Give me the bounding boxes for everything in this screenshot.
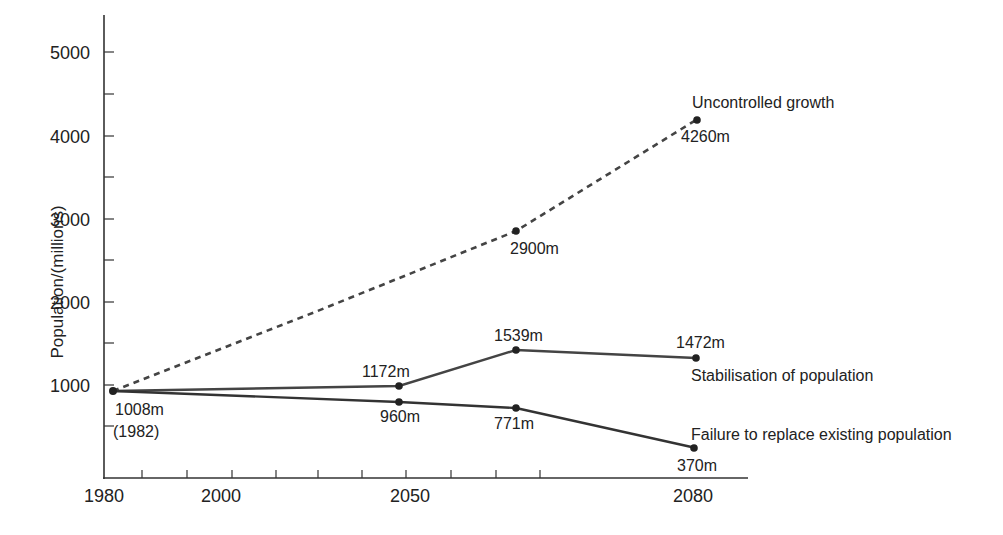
point-2900 (512, 227, 520, 235)
y-tick-1000: 1000 (50, 377, 90, 395)
label-370: 370m (677, 458, 717, 474)
point-960 (395, 398, 403, 406)
y-tick-3000: 3000 (50, 211, 90, 229)
label-start-value: 1008m (115, 402, 164, 418)
y-ticks (104, 52, 114, 426)
y-tick-2000: 2000 (50, 294, 90, 312)
x-ticks (142, 470, 540, 478)
point-1539 (512, 346, 520, 354)
y-tick-5000: 5000 (50, 44, 90, 62)
x-tick-1980: 1980 (84, 487, 124, 505)
point-771 (512, 404, 520, 412)
point-1472 (692, 354, 700, 362)
series-label-failure: Failure to replace existing population (691, 427, 952, 443)
x-tick-2050: 2050 (390, 487, 430, 505)
label-4260: 4260m (681, 129, 730, 145)
series-label-uncontrolled: Uncontrolled growth (692, 95, 834, 111)
label-960: 960m (380, 409, 420, 425)
label-1172: 1172m (362, 364, 410, 380)
y-axis-title: Population/(millions) (49, 209, 66, 359)
label-1539: 1539m (494, 328, 543, 344)
point-1172 (395, 382, 403, 390)
label-2900: 2900m (510, 241, 559, 257)
label-771: 771m (494, 416, 534, 432)
point-1982 (109, 387, 117, 395)
label-1472: 1472m (676, 335, 725, 351)
series-uncontrolled-growth-line (113, 120, 696, 391)
point-370 (690, 444, 698, 452)
label-start-year: (1982) (113, 424, 159, 440)
point-4260 (693, 116, 701, 124)
series-label-stabilisation: Stabilisation of population (691, 368, 873, 384)
x-tick-2080: 2080 (673, 487, 713, 505)
x-tick-2000: 2000 (201, 487, 241, 505)
y-tick-4000: 4000 (50, 128, 90, 146)
chart-canvas (0, 0, 1003, 535)
